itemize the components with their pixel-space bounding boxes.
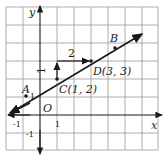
rise-label: 1	[35, 67, 48, 74]
point-a-label: A	[21, 83, 30, 96]
point-b	[113, 46, 117, 50]
grid	[6, 7, 158, 150]
point-b-label: B	[109, 32, 118, 45]
coordinate-diagram: y x O -1 1 1 -1 A C(1, 2) D(3, 3) B 1 2	[0, 0, 168, 158]
point-c-label: C(1, 2)	[59, 83, 97, 96]
tick-y-pos-1: 1	[30, 92, 35, 101]
origin-label: O	[43, 102, 52, 115]
point-d-label: D(3, 3)	[92, 65, 131, 78]
point-c	[55, 77, 59, 81]
tick-y-neg-1: -1	[26, 130, 34, 139]
y-axis-label: y	[28, 6, 36, 19]
point-d	[89, 59, 93, 63]
run-label: 2	[68, 47, 75, 60]
tick-x-neg-1: -1	[13, 120, 21, 129]
tick-x-pos-1: 1	[55, 120, 60, 129]
x-axis-label: x	[151, 119, 158, 132]
